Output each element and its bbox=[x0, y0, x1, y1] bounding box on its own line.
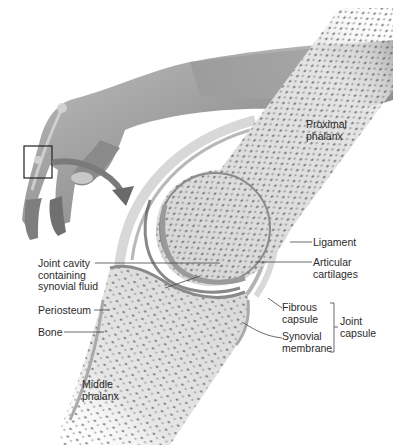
label-joint-cavity: Joint cavity containing synovial fluid bbox=[38, 258, 98, 293]
label-ligament: Ligament bbox=[313, 237, 356, 249]
label-bone: Bone bbox=[38, 327, 63, 339]
anatomy-illustration bbox=[0, 0, 393, 445]
label-articular-cartilages: Articular cartilages bbox=[313, 257, 358, 280]
label-periosteum: Periosteum bbox=[38, 305, 91, 317]
label-proximal-phalanx: Proximal phalanx bbox=[306, 119, 347, 142]
label-fibrous-capsule: Fibrous capsule bbox=[282, 302, 318, 325]
joint-diagram: Proximal phalanx Ligament Articular cart… bbox=[0, 0, 393, 445]
label-synovial-membrane: Synovial membrane bbox=[282, 331, 332, 354]
label-joint-capsule: Joint capsule bbox=[340, 316, 376, 339]
label-middle-phalanx: Middle phalanx bbox=[82, 379, 119, 402]
